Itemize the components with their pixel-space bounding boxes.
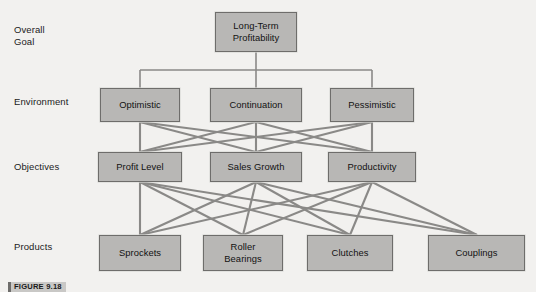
node-couplings[interactable]: Couplings [428,235,525,271]
edges-objectives-products [140,182,477,235]
node-optimistic[interactable]: Optimistic [100,88,180,122]
node-long-term-profitability[interactable]: Long-Term Profitability [215,12,297,52]
node-clutches[interactable]: Clutches [307,235,393,271]
node-continuation[interactable]: Continuation [210,88,302,122]
row-label-environment: Environment [14,96,68,108]
row-label-overall-goal: Overall Goal [14,24,45,47]
edges-environment-objectives [140,122,372,152]
node-roller-bearings[interactable]: Roller Bearings [203,235,283,271]
row-label-objectives: Objectives [14,161,59,173]
node-profit-level[interactable]: Profit Level [98,152,182,182]
figure-canvas: Overall Goal Environment Objectives Prod… [0,0,536,292]
node-sprockets[interactable]: Sprockets [99,235,181,271]
node-productivity[interactable]: Productivity [328,152,416,182]
row-label-products: Products [14,241,52,253]
figure-caption: FIGURE 9.18 [8,282,66,292]
figure-caption-label: FIGURE 9.18 [14,283,62,291]
node-sales-growth[interactable]: Sales Growth [210,152,302,182]
node-pessimistic[interactable]: Pessimistic [330,88,414,122]
